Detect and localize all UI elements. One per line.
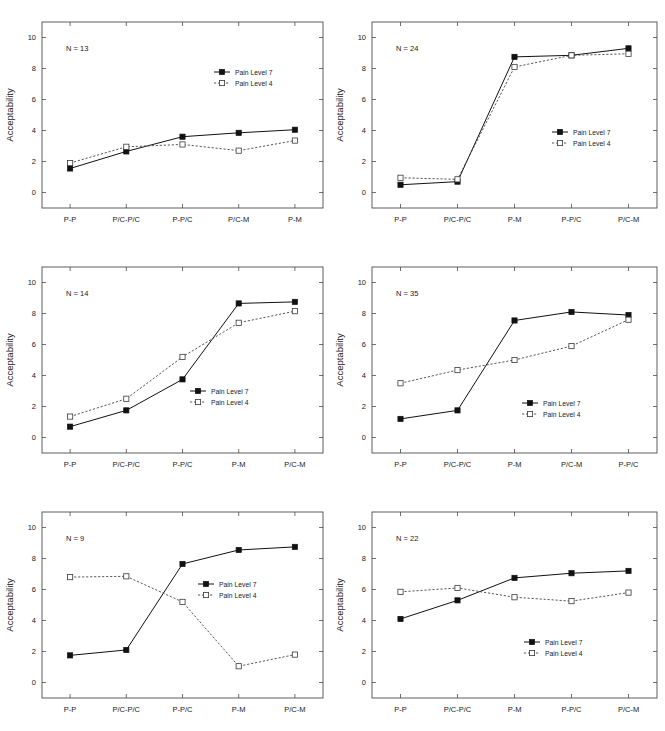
y-tick-label: 2 [362, 647, 366, 656]
legend-label-pain-level-7: Pain Level 7 [219, 581, 257, 588]
y-tick-label: 6 [362, 585, 366, 594]
data-point-marker [124, 396, 129, 401]
y-tick-label: 0 [32, 433, 36, 442]
data-point-marker [455, 408, 460, 413]
y-tick-label: 6 [362, 95, 366, 104]
data-point-marker [398, 616, 403, 621]
data-point-marker [124, 144, 129, 149]
data-point-marker [455, 598, 460, 603]
data-point-marker [512, 575, 517, 580]
y-tick-label: 8 [32, 64, 36, 73]
series-line-pain-level-7 [401, 312, 629, 419]
data-point-marker [68, 575, 73, 580]
y-axis-title: Acceptability [4, 333, 15, 387]
data-point-marker [236, 664, 241, 669]
x-tick-label: P-P [64, 215, 77, 224]
x-tick-label: P-M [508, 215, 522, 224]
data-point-marker [569, 53, 574, 58]
x-tick-label: P-P [394, 215, 407, 224]
legend-label-pain-level-4: Pain Level 4 [543, 411, 581, 418]
data-point-marker [569, 599, 574, 604]
data-point-marker [512, 64, 517, 69]
data-point-marker [124, 574, 129, 579]
data-point-marker [236, 148, 241, 153]
data-point-marker [124, 408, 129, 413]
x-tick-label: P-P [394, 705, 407, 714]
y-axis-title: Acceptability [4, 88, 15, 142]
data-point-marker [180, 599, 185, 604]
y-axis-title: Acceptability [334, 578, 345, 632]
x-tick-label: P/C-P/C [444, 705, 472, 714]
y-tick-label: 4 [362, 126, 366, 135]
data-point-marker [292, 309, 297, 314]
data-point-marker [236, 130, 241, 135]
data-point-marker [398, 381, 403, 386]
x-tick-label: P/C-M [561, 460, 582, 469]
y-tick-label: 4 [32, 126, 36, 135]
data-point-marker [292, 652, 297, 657]
y-tick-label: 2 [32, 647, 36, 656]
chart-panel-4: Acceptability0246810P-PP/C-P/CP-MP/C-MP-… [330, 245, 665, 490]
data-point-marker [398, 175, 403, 180]
y-tick-label: 6 [32, 585, 36, 594]
x-tick-label: P-M [508, 705, 522, 714]
y-tick-label: 2 [362, 402, 366, 411]
x-tick-label: P-P/C [618, 460, 639, 469]
x-tick-label: P-P/C [561, 215, 582, 224]
legend-label-pain-level-4: Pain Level 4 [211, 399, 249, 406]
y-tick-label: 10 [28, 278, 36, 287]
data-point-marker [512, 318, 517, 323]
data-point-marker [68, 160, 73, 165]
data-point-marker [398, 416, 403, 421]
sample-size-annotation: N = 14 [66, 289, 88, 298]
x-tick-label: P-M [288, 215, 302, 224]
x-tick-label: P/C-P/C [444, 215, 472, 224]
data-point-marker [68, 414, 73, 419]
y-tick-label: 0 [32, 188, 36, 197]
series-line-pain-level-4 [401, 320, 629, 384]
y-tick-label: 4 [362, 371, 366, 380]
x-tick-label: P-P/C [172, 460, 193, 469]
y-axis-title: Acceptability [4, 578, 15, 632]
legend-label-pain-level-7: Pain Level 7 [235, 69, 273, 76]
data-point-marker [68, 653, 73, 658]
data-point-marker [626, 590, 631, 595]
data-point-marker [626, 51, 631, 56]
legend: Pain Level 7Pain Level 4 [214, 69, 273, 87]
x-tick-label: P/C-P/C [113, 460, 141, 469]
y-tick-label: 8 [362, 64, 366, 73]
figure-canvas: Acceptability0246810P-PP/C-P/CP-P/CP/C-M… [0, 0, 665, 731]
data-point-marker [180, 561, 185, 566]
data-point-marker [512, 54, 517, 59]
x-tick-label: P/C-P/C [444, 460, 472, 469]
y-tick-label: 8 [32, 554, 36, 563]
y-tick-label: 2 [32, 402, 36, 411]
data-point-marker [292, 544, 297, 549]
legend-label-pain-level-4: Pain Level 4 [573, 140, 611, 147]
legend-label-pain-level-4: Pain Level 4 [545, 650, 583, 657]
series-line-pain-level-4 [401, 54, 629, 180]
sample-size-annotation: N = 9 [66, 534, 84, 543]
x-tick-label: P/C-M [618, 705, 639, 714]
y-tick-label: 4 [362, 616, 366, 625]
y-tick-label: 2 [32, 157, 36, 166]
y-tick-label: 8 [32, 309, 36, 318]
chart-panel-6: Acceptability0246810P-PP/C-P/CP-MP-P/CP/… [330, 490, 665, 731]
data-point-marker [292, 138, 297, 143]
y-tick-label: 10 [28, 33, 36, 42]
data-point-marker [68, 424, 73, 429]
y-tick-label: 10 [358, 523, 366, 532]
x-tick-label: P-P/C [172, 705, 193, 714]
legend: Pain Level 7Pain Level 4 [198, 581, 257, 599]
sample-size-annotation: N = 24 [396, 44, 418, 53]
x-tick-label: P/C-M [228, 215, 249, 224]
legend-label-pain-level-7: Pain Level 7 [543, 400, 581, 407]
x-tick-label: P/C-M [284, 460, 305, 469]
chart-panel-1: Acceptability0246810P-PP/C-P/CP-P/CP/C-M… [0, 0, 330, 245]
y-tick-label: 4 [32, 616, 36, 625]
y-tick-label: 8 [362, 309, 366, 318]
data-point-marker [236, 547, 241, 552]
data-point-marker [236, 301, 241, 306]
y-tick-label: 6 [32, 340, 36, 349]
data-point-marker [626, 46, 631, 51]
